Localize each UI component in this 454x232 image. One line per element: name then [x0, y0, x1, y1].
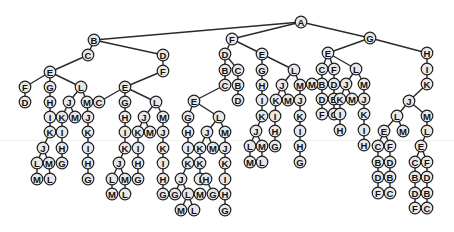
tree-node-e: E [322, 47, 334, 59]
node-label: H [337, 125, 344, 136]
node-label: E [191, 96, 197, 107]
node-label: F [319, 109, 325, 120]
tree-node-j: J [63, 96, 75, 108]
node-label: J [85, 112, 90, 123]
node-label: L [353, 64, 359, 75]
tree-node-k: K [334, 93, 346, 105]
node-label: L [394, 111, 400, 122]
node-label: C [375, 141, 382, 152]
tree-node-k: K [194, 157, 206, 169]
tree-node-f: F [421, 156, 433, 168]
node-label: H [272, 126, 279, 137]
node-label: G [84, 174, 91, 185]
tree-node-d: D [157, 49, 169, 61]
tree-node-c: C [232, 64, 244, 76]
tree-node-m: M [81, 96, 93, 108]
tree-node-m: M [106, 188, 118, 200]
node-label: M [45, 158, 53, 169]
node-label: K [135, 127, 142, 138]
node-label: E [418, 141, 424, 152]
node-label: H [122, 112, 129, 123]
tree-node-m: M [175, 204, 187, 216]
tree-node-b: B [409, 171, 421, 183]
node-label: M [258, 141, 266, 152]
tree-node-l: L [106, 173, 118, 185]
tree-node-l: L [391, 110, 403, 122]
tree-node-h: H [334, 124, 346, 136]
node-label: K [185, 158, 192, 169]
node-label: M [71, 112, 79, 123]
node-label: F [160, 66, 166, 77]
tree-node-a: A [295, 16, 307, 28]
node-label: G [258, 65, 265, 76]
tree-node-j: J [37, 142, 49, 154]
node-label: J [204, 127, 209, 138]
tree-node-h: H [157, 173, 169, 185]
tree-node-l: L [244, 140, 256, 152]
node-label: K [85, 127, 92, 138]
node-label: D [235, 95, 242, 106]
tree-edge [94, 22, 301, 40]
tree-node-h: H [358, 139, 370, 151]
tree-node-i: I [421, 63, 433, 75]
node-label: B [387, 172, 394, 183]
tree-node-i: I [294, 125, 306, 137]
tree-node-m: M [207, 142, 219, 154]
tree-edge [370, 38, 427, 53]
node-label: M [308, 79, 316, 90]
node-label: L [259, 157, 265, 168]
node-label: M [296, 80, 304, 91]
node-label: B [375, 157, 382, 168]
tree-diagram: ABCDFEFDGHIKJLMMLLJKMIHGMJKIHGCEGHIKJLMM… [0, 0, 454, 232]
tree-node-j: J [403, 95, 415, 107]
node-label: B [235, 80, 242, 91]
tree-node-c: C [219, 79, 231, 91]
node-label: C [412, 157, 419, 168]
node-label: J [40, 143, 45, 154]
node-label: I [137, 143, 140, 154]
node-label: L [247, 141, 253, 152]
tree-node-j: J [138, 111, 150, 123]
tree-node-k: K [256, 110, 268, 122]
node-label: D [222, 49, 229, 60]
tree-node-g: G [207, 188, 219, 200]
node-label: M [221, 127, 229, 138]
node-label: M [177, 205, 185, 216]
tree-node-e: E [415, 140, 427, 152]
node-label: E [381, 126, 387, 137]
node-label: L [78, 82, 84, 93]
node-label: K [361, 109, 368, 120]
node-label: L [109, 174, 115, 185]
node-label: H [203, 174, 210, 185]
tree-node-h: H [421, 47, 433, 59]
tree-node-c: C [93, 96, 105, 108]
tree-node-k: K [132, 126, 144, 138]
node-label: E [122, 82, 128, 93]
node-label: H [160, 174, 167, 185]
tree-node-f: F [409, 202, 421, 214]
tree-node-k: K [421, 78, 433, 90]
tree-node-h: H [119, 111, 131, 123]
tree-node-c: C [82, 49, 94, 61]
node-label: I [49, 112, 52, 123]
node-label: M [33, 174, 41, 185]
tree-node-f: F [19, 81, 31, 93]
tree-node-c: C [372, 140, 384, 152]
tree-node-m: M [397, 125, 409, 137]
tree-node-e: E [44, 66, 56, 78]
node-label: M [399, 126, 407, 137]
node-label: G [221, 205, 228, 216]
node-label: K [273, 95, 280, 106]
node-label: D [22, 97, 29, 108]
tree-node-k: K [219, 157, 231, 169]
node-label: M [209, 143, 217, 154]
tree-node-h: H [219, 188, 231, 200]
node-label: M [246, 157, 254, 168]
tree-node-m: M [244, 156, 256, 168]
tree-node-g: G [82, 173, 94, 185]
tree-edge [328, 38, 370, 53]
tree-node-i: I [269, 110, 281, 122]
tree-node-m: M [358, 78, 370, 90]
tree-node-f: F [316, 108, 328, 120]
tree-node-l: L [256, 156, 268, 168]
